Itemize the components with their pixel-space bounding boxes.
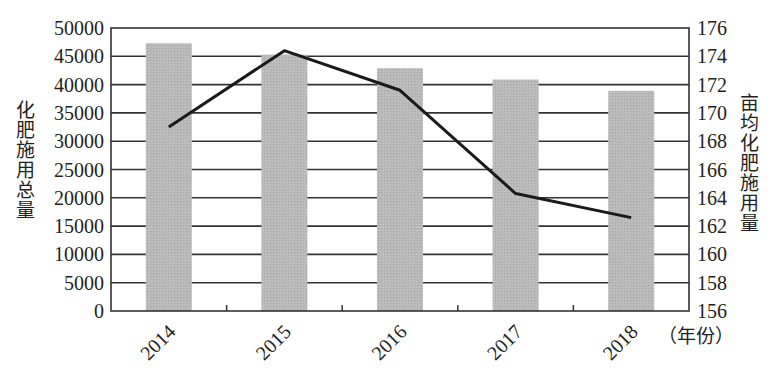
x-tick-label-2015: 2015 <box>251 320 295 364</box>
right-y-tick-label: 176 <box>697 17 727 39</box>
left-y-axis-ticks: 0500010000150002000025000300003500040000… <box>54 17 104 322</box>
x-axis-ticks: 20142015201620172018 <box>136 320 642 364</box>
right-y-tick-label: 170 <box>697 102 727 124</box>
x-axis-unit-label: （年份） <box>658 321 734 348</box>
x-tick-label-2014: 2014 <box>136 320 180 364</box>
left-y-tick-label: 10000 <box>54 243 104 265</box>
bar-2014 <box>146 43 192 311</box>
left-y-tick-label: 40000 <box>54 74 104 96</box>
left-y-axis-title: 化肥施用总量 <box>14 100 33 220</box>
bar-series <box>146 43 654 311</box>
left-y-tick-label: 15000 <box>54 215 104 237</box>
x-tick-label-2018: 2018 <box>598 320 642 364</box>
left-y-tick-label: 45000 <box>54 45 104 67</box>
bar-2018 <box>608 91 654 311</box>
right-y-tick-label: 166 <box>697 159 727 181</box>
left-y-tick-label: 50000 <box>54 17 104 39</box>
x-tick-label-2016: 2016 <box>367 320 411 364</box>
right-y-tick-label: 160 <box>697 243 727 265</box>
x-tick-label-2017: 2017 <box>483 320 527 364</box>
left-y-tick-label: 25000 <box>54 159 104 181</box>
right-y-tick-label: 172 <box>697 74 727 96</box>
right-y-tick-label: 162 <box>697 215 727 237</box>
left-y-tick-label: 35000 <box>54 102 104 124</box>
right-y-tick-label: 174 <box>697 45 727 67</box>
left-y-tick-label: 5000 <box>64 272 104 294</box>
right-y-axis-ticks: 156158160162164166168170172174176 <box>697 17 727 322</box>
right-y-axis-title: 亩均化肥施用量 <box>738 93 757 233</box>
left-y-tick-label: 0 <box>94 300 104 322</box>
right-y-tick-label: 158 <box>697 272 727 294</box>
bar-2017 <box>493 80 539 311</box>
right-y-tick-label: 164 <box>697 187 727 209</box>
right-y-tick-label: 168 <box>697 130 727 152</box>
right-y-tick-label: 156 <box>697 300 727 322</box>
left-y-tick-label: 20000 <box>54 187 104 209</box>
left-y-tick-label: 30000 <box>54 130 104 152</box>
bar-2015 <box>261 55 307 311</box>
